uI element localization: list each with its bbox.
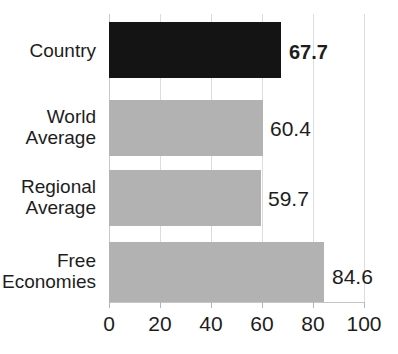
x-tick-100	[364, 302, 365, 308]
chart-title-remnant	[0, 0, 398, 9]
category-label-free-economies: FreeEconomies	[0, 250, 96, 292]
category-label-regional-average: RegionalAverage	[0, 176, 96, 218]
bar-world-average	[109, 100, 263, 156]
bar-chart: Country WorldAverage RegionalAverage Fre…	[0, 0, 398, 354]
value-label-country: 67.7	[289, 42, 328, 63]
x-axis-line	[109, 302, 365, 303]
value-label-free-economies: 84.6	[332, 266, 373, 287]
x-tick-label-60: 60	[250, 312, 273, 336]
bar-free-economies	[109, 242, 325, 302]
x-tick-20	[160, 302, 161, 308]
x-tick-label-80: 80	[301, 312, 324, 336]
x-tick-0	[109, 302, 110, 308]
category-label-regional-average-line2: Average	[26, 197, 96, 218]
x-tick-60	[262, 302, 263, 308]
category-label-free-economies-line1: Free	[57, 250, 96, 271]
category-label-world-average: WorldAverage	[0, 106, 96, 148]
category-label-regional-average-line1: Regional	[21, 176, 96, 197]
bar-country	[109, 22, 282, 78]
x-tick-80	[313, 302, 314, 308]
category-label-free-economies-line2: Economies	[2, 271, 96, 292]
category-label-world-average-line1: World	[47, 106, 96, 127]
value-label-world-average: 60.4	[270, 118, 311, 139]
x-tick-label-0: 0	[103, 312, 115, 336]
value-label-regional-average: 59.7	[268, 188, 309, 209]
x-tick-40	[211, 302, 212, 308]
bar-regional-average	[109, 170, 261, 226]
x-tick-label-40: 40	[199, 312, 222, 336]
category-label-world-average-line2: Average	[26, 127, 96, 148]
category-label-country: Country	[0, 40, 96, 61]
x-tick-label-100: 100	[346, 312, 381, 336]
gridline-100	[364, 14, 365, 302]
x-tick-label-20: 20	[148, 312, 171, 336]
